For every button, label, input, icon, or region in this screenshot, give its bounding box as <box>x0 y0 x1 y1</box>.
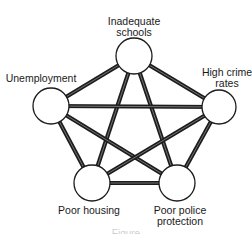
figure-caption: Figure <box>112 228 140 234</box>
label-inadequate-schools: Inadequate schools <box>108 16 161 38</box>
vicious-cycle-diagram: Inadequate schools Unemployment High cri… <box>0 0 252 234</box>
node-unemployment <box>33 88 69 124</box>
label-high-crime-rates: High crime rates <box>202 67 252 89</box>
node-schools <box>116 38 152 74</box>
node-police <box>159 165 195 201</box>
label-unemployment: Unemployment <box>6 73 77 84</box>
label-poor-housing: Poor housing <box>58 205 120 216</box>
label-line: protection <box>154 216 207 227</box>
nodes <box>33 38 236 201</box>
node-crime <box>202 90 236 124</box>
edge-schools-police <box>134 56 177 183</box>
label-line: schools <box>108 27 161 38</box>
label-poor-police-protection: Poor police protection <box>154 205 207 227</box>
label-line: Poor housing <box>58 205 120 216</box>
label-line: rates <box>202 78 252 89</box>
node-housing <box>74 165 110 201</box>
label-line: Unemployment <box>6 73 77 84</box>
